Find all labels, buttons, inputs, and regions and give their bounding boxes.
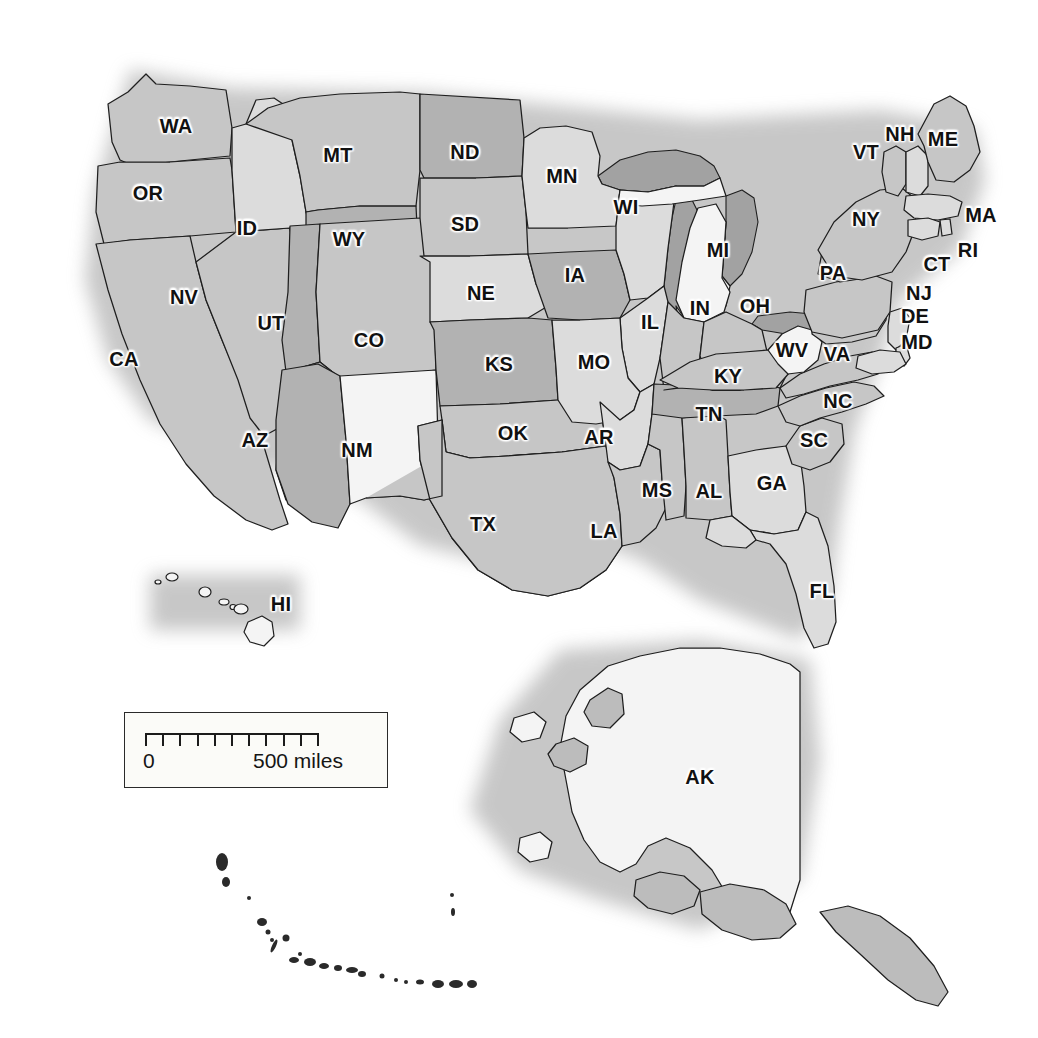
state-label-ky[interactable]: KY xyxy=(714,365,742,388)
scale-tick xyxy=(317,733,319,746)
state-label-wi[interactable]: WI xyxy=(614,196,639,219)
state-label-la[interactable]: LA xyxy=(590,520,617,543)
state-label-ca[interactable]: CA xyxy=(109,348,138,371)
state-label-va[interactable]: VA xyxy=(824,343,851,366)
state-label-nv[interactable]: NV xyxy=(170,286,198,309)
state-label-ks[interactable]: KS xyxy=(485,353,513,376)
state-label-nh[interactable]: NH xyxy=(885,123,914,146)
state-label-id[interactable]: ID xyxy=(237,217,257,240)
state-label-ga[interactable]: GA xyxy=(757,472,787,495)
state-label-ma[interactable]: MA xyxy=(965,204,997,227)
state-label-mn[interactable]: MN xyxy=(546,165,578,188)
state-label-oh[interactable]: OH xyxy=(740,295,770,318)
scale-tick xyxy=(214,733,216,746)
state-label-az[interactable]: AZ xyxy=(241,429,268,452)
state-label-in[interactable]: IN xyxy=(690,297,710,320)
map-canvas: WAORIDMTWYNDSDNEMNIAWIMIILINOHMOKSCOUTNV… xyxy=(0,0,1038,1038)
state-label-sc[interactable]: SC xyxy=(800,429,828,452)
state-label-fl[interactable]: FL xyxy=(810,580,835,603)
state-label-ct[interactable]: CT xyxy=(923,253,950,276)
state-label-me[interactable]: ME xyxy=(928,128,958,151)
state-label-nc[interactable]: NC xyxy=(823,390,852,413)
scale-tick xyxy=(179,733,181,746)
state-label-pa[interactable]: PA xyxy=(820,262,847,285)
state-label-wy[interactable]: WY xyxy=(333,228,366,251)
scale-tick xyxy=(248,733,250,746)
state-label-il[interactable]: IL xyxy=(641,311,659,334)
state-label-mo[interactable]: MO xyxy=(578,351,611,374)
state-label-mt[interactable]: MT xyxy=(323,144,352,167)
scale-tick xyxy=(300,733,302,746)
state-label-md[interactable]: MD xyxy=(901,331,933,354)
scale-tick xyxy=(162,733,164,746)
state-label-hi[interactable]: HI xyxy=(271,593,291,616)
scale-bar-max-label: 500 miles xyxy=(253,749,343,773)
scale-tick xyxy=(145,733,147,746)
scale-bar-zero-label: 0 xyxy=(143,749,155,773)
scale-bar-ticks xyxy=(145,733,317,746)
scale-tick xyxy=(283,733,285,746)
state-label-nm[interactable]: NM xyxy=(341,439,373,462)
state-label-mi[interactable]: MI xyxy=(707,239,730,262)
state-label-co[interactable]: CO xyxy=(354,329,384,352)
state-label-ok[interactable]: OK xyxy=(498,422,528,445)
us-states-map xyxy=(0,0,1038,1038)
state-label-tx[interactable]: TX xyxy=(470,513,496,536)
state-label-wv[interactable]: WV xyxy=(776,339,809,362)
state-label-al[interactable]: AL xyxy=(695,480,722,503)
state-label-ak[interactable]: AK xyxy=(685,766,714,789)
scale-tick xyxy=(197,733,199,746)
state-label-vt[interactable]: VT xyxy=(853,141,879,164)
state-label-tn[interactable]: TN xyxy=(695,403,722,426)
state-label-de[interactable]: DE xyxy=(901,305,929,328)
state-label-nj[interactable]: NJ xyxy=(906,282,932,305)
scale-tick xyxy=(265,733,267,746)
scale-bar: 0 500 miles xyxy=(124,712,388,788)
state-label-ne[interactable]: NE xyxy=(467,282,495,305)
state-label-ny[interactable]: NY xyxy=(852,208,880,231)
state-label-sd[interactable]: SD xyxy=(451,213,479,236)
state-label-or[interactable]: OR xyxy=(133,182,163,205)
state-label-ar[interactable]: AR xyxy=(584,426,613,449)
state-label-ut[interactable]: UT xyxy=(257,312,284,335)
state-label-ia[interactable]: IA xyxy=(565,264,585,287)
state-label-nd[interactable]: ND xyxy=(450,141,479,164)
state-label-ri[interactable]: RI xyxy=(958,239,978,262)
state-label-wa[interactable]: WA xyxy=(160,115,193,138)
state-label-ms[interactable]: MS xyxy=(642,479,672,502)
scale-tick xyxy=(231,733,233,746)
